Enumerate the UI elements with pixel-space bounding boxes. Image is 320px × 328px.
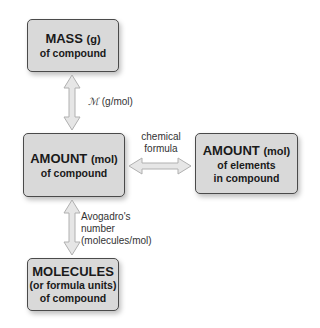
amount-title: AMOUNT [30,151,87,166]
mass-unit: (g) [87,33,101,45]
mass-title: MASS [45,31,83,46]
double-arrow-vertical-icon [62,74,82,131]
elements-title: AMOUNT [203,143,260,158]
mass-subtitle: of compound [40,47,107,60]
amount-elements-box: AMOUNT (mol) of elements in compound [195,133,298,194]
amount-compound-box: AMOUNT (mol) of compound [23,133,125,197]
amount-unit: (mol) [91,153,118,165]
molecules-title: MOLECULES [32,264,114,279]
elements-line2: of elements [217,159,275,172]
molecules-line2: (or formula units) [30,279,117,292]
molar-mass-symbol: ℳ [88,96,99,107]
elements-unit: (mol) [263,145,290,157]
molecules-box: MOLECULES (or formula units) of compound [27,258,119,311]
elements-line3: in compound [214,172,280,185]
molecules-line3: of compound [40,292,107,305]
double-arrow-vertical-icon [62,199,82,256]
amount-subtitle: of compound [41,167,108,180]
avogadro-label: Avogadro's number (molecules/mol) [81,211,152,247]
double-arrow-horizontal-icon [128,156,192,176]
mass-box: MASS (g) of compound [27,19,119,72]
chemical-formula-label: chemical formula [134,131,188,155]
molar-mass-label: ℳ (g/mol) [88,96,133,108]
